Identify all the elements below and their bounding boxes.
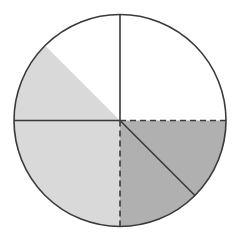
pie-chart-svg (0, 0, 239, 245)
fraction-circle-figure (0, 0, 239, 245)
